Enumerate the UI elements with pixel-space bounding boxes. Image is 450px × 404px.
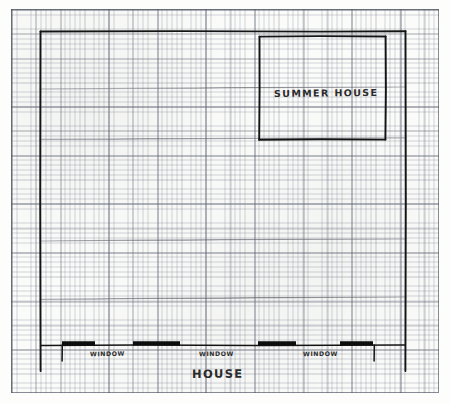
graph-paper-sheet bbox=[11, 9, 439, 393]
summer-house-label: SUMMER HOUSE bbox=[274, 87, 379, 99]
window-label-3: WINDOW bbox=[303, 350, 338, 357]
window-label-2: WINDOW bbox=[199, 350, 234, 357]
paper-grain-texture bbox=[11, 9, 439, 393]
window-label-1: WINDOW bbox=[90, 350, 125, 357]
floor-plan-page: SUMMER HOUSE HOUSE WINDOW WINDOW WINDOW bbox=[0, 0, 450, 404]
house-label: HOUSE bbox=[192, 367, 243, 381]
